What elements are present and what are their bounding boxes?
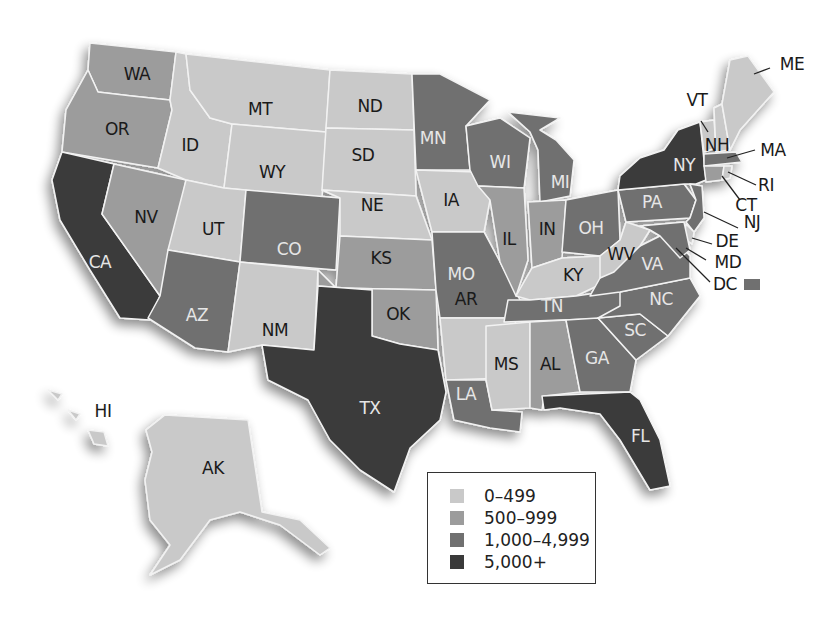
label-ID: ID bbox=[181, 135, 198, 155]
legend-item: 5,000+ bbox=[450, 551, 595, 573]
label-KS: KS bbox=[371, 248, 392, 268]
label-NV: NV bbox=[134, 207, 157, 227]
label-OH: OH bbox=[578, 218, 603, 238]
label-SD: SD bbox=[352, 145, 375, 165]
label-MN: MN bbox=[420, 128, 446, 148]
label-IA: IA bbox=[443, 190, 459, 210]
label-WY: WY bbox=[259, 162, 285, 182]
state-WY bbox=[224, 124, 326, 198]
legend-swatch bbox=[450, 533, 464, 547]
label-MD: MD bbox=[715, 252, 742, 272]
label-MA: MA bbox=[760, 140, 785, 160]
legend-item: 1,000–4,999 bbox=[450, 529, 595, 551]
label-NH: NH bbox=[705, 135, 730, 155]
label-FL: FL bbox=[631, 426, 649, 446]
label-TN: TN bbox=[541, 296, 563, 316]
label-MT: MT bbox=[248, 99, 272, 119]
dc-swatch bbox=[744, 279, 760, 290]
legend-swatch bbox=[450, 555, 464, 569]
label-NE: NE bbox=[361, 195, 383, 215]
label-IN: IN bbox=[539, 219, 556, 239]
label-NY: NY bbox=[673, 155, 695, 175]
label-RI: RI bbox=[758, 175, 774, 195]
label-OR: OR bbox=[105, 119, 129, 139]
label-ND: ND bbox=[358, 96, 383, 116]
label-WV: WV bbox=[607, 244, 634, 264]
label-DC: DC bbox=[713, 274, 737, 294]
label-AR: AR bbox=[455, 289, 477, 309]
label-NC: NC bbox=[649, 289, 673, 309]
legend-swatch bbox=[450, 511, 464, 525]
label-ME: ME bbox=[780, 54, 804, 74]
legend-swatch bbox=[450, 489, 464, 503]
label-PA: PA bbox=[642, 192, 662, 212]
label-AZ: AZ bbox=[186, 305, 208, 325]
label-AL: AL bbox=[540, 354, 560, 374]
label-VT: VT bbox=[686, 90, 707, 110]
label-AK: AK bbox=[202, 458, 224, 478]
label-MO: MO bbox=[447, 264, 474, 284]
label-MS: MS bbox=[494, 354, 518, 374]
legend-item: 0–499 bbox=[450, 485, 595, 507]
legend-label: 5,000+ bbox=[484, 552, 547, 572]
label-SC: SC bbox=[624, 320, 646, 340]
legend-label: 0–499 bbox=[484, 486, 536, 506]
label-TX: TX bbox=[359, 398, 380, 418]
state-CT bbox=[704, 166, 724, 182]
state-AK bbox=[145, 415, 330, 575]
label-WI: WI bbox=[490, 152, 511, 172]
label-WA: WA bbox=[124, 64, 151, 84]
label-CO: CO bbox=[277, 239, 301, 259]
legend-label: 500–999 bbox=[484, 508, 557, 528]
label-OK: OK bbox=[386, 304, 410, 324]
label-UT: UT bbox=[202, 219, 224, 239]
label-LA: LA bbox=[456, 384, 477, 404]
label-MI: MI bbox=[551, 172, 570, 192]
label-NJ: NJ bbox=[744, 212, 761, 232]
label-DE: DE bbox=[716, 231, 739, 251]
label-IL: IL bbox=[502, 229, 516, 249]
legend-item: 500–999 bbox=[450, 507, 595, 529]
legend: 0–499 500–999 1,000–4,999 5,000+ bbox=[427, 472, 596, 584]
label-CA: CA bbox=[89, 252, 112, 272]
label-GA: GA bbox=[585, 348, 609, 368]
label-NM: NM bbox=[262, 320, 288, 340]
legend-label: 1,000–4,999 bbox=[484, 530, 590, 550]
label-VA: VA bbox=[641, 254, 662, 274]
label-KY: KY bbox=[563, 265, 583, 285]
label-HI: HI bbox=[95, 401, 112, 421]
